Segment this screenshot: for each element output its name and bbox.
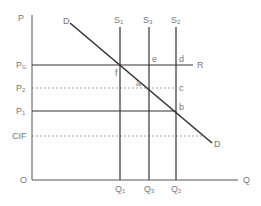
origin-label: O: [20, 175, 27, 185]
price-label-p1: P1: [16, 106, 26, 116]
quantity-label-q2: Q2: [171, 184, 182, 194]
point-f-label: f: [115, 68, 118, 78]
supply-label-s1: S1: [114, 15, 124, 25]
y-axis-label: P: [18, 13, 24, 23]
point-a-label: a: [136, 78, 141, 88]
supply-label-s2: S2: [171, 15, 181, 25]
point-b-label: b: [179, 102, 184, 112]
demand-label-start: D: [63, 16, 70, 26]
line-r-label: R: [197, 60, 204, 70]
supply-label-s3: S3: [143, 15, 153, 25]
point-c-label: c: [179, 83, 184, 93]
point-d-label: d: [179, 54, 184, 64]
demand-label-end: D: [214, 139, 221, 149]
x-axis-label: Q: [243, 175, 250, 185]
price-label-pg: PG: [16, 60, 27, 70]
quantity-label-q3: Q3: [144, 184, 155, 194]
quantity-label-q1: Q1: [115, 184, 126, 194]
price-label-cif: CIF: [12, 131, 27, 141]
supply-demand-diagram: P O Q PG P2 P1 CIF R S1 S3 S2 D D f e d …: [0, 0, 261, 206]
point-e-label: e: [152, 54, 157, 64]
price-label-p2: P2: [16, 83, 26, 93]
